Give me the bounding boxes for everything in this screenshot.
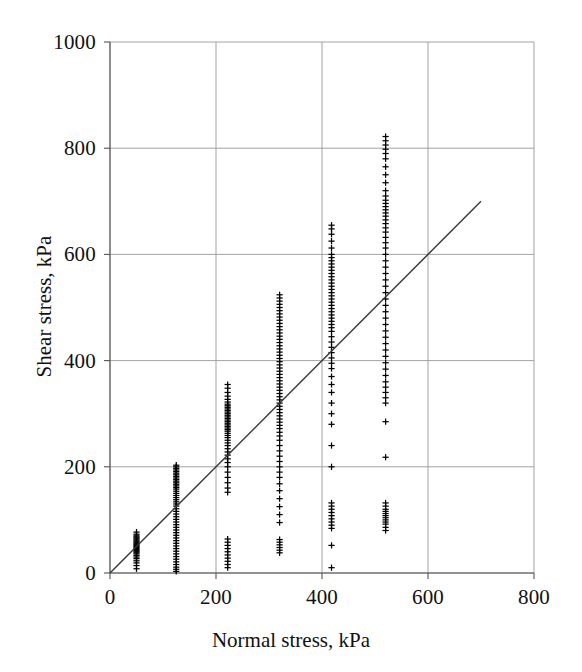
data-point-marker — [277, 488, 283, 494]
data-point-marker — [383, 258, 389, 264]
data-point-marker — [328, 238, 334, 244]
data-point-marker — [328, 565, 334, 571]
data-point-marker — [383, 309, 389, 315]
data-point-marker — [383, 419, 389, 425]
y-tick-label: 1000 — [0, 30, 96, 55]
data-point-marker — [328, 442, 334, 448]
data-points-group — [133, 133, 388, 574]
data-point-marker — [328, 421, 334, 427]
x-tick-label: 400 — [306, 585, 338, 610]
data-point-marker — [277, 481, 283, 487]
data-point-marker — [225, 474, 231, 480]
data-point-marker — [225, 485, 231, 491]
data-point-marker — [277, 474, 283, 480]
data-point-marker — [328, 381, 334, 387]
data-point-marker — [383, 180, 389, 186]
data-point-marker — [277, 519, 283, 525]
shear-strength-scatter-figure: 02004006008001000 0200400600800 Normal s… — [0, 0, 582, 672]
y-axis-title: Shear stress, kPa — [32, 197, 57, 417]
data-point-marker — [328, 365, 334, 371]
data-point-marker — [383, 270, 389, 276]
data-point-marker — [225, 381, 231, 387]
data-point-marker — [383, 379, 389, 385]
data-point-marker — [328, 251, 334, 257]
data-point-marker — [383, 454, 389, 460]
data-point-marker — [383, 264, 389, 270]
data-point-marker — [277, 469, 283, 475]
data-point-marker — [383, 384, 389, 390]
data-point-marker — [328, 360, 334, 366]
data-point-marker — [383, 500, 389, 506]
data-point-marker — [383, 133, 389, 139]
data-point-marker — [383, 328, 389, 334]
data-point-marker — [277, 442, 283, 448]
data-point-marker — [383, 302, 389, 308]
data-point-marker — [383, 366, 389, 372]
x-tick-label: 200 — [200, 585, 232, 610]
data-point-marker — [383, 372, 389, 378]
x-tick-label: 0 — [105, 585, 116, 610]
data-point-marker — [383, 172, 389, 178]
data-point-marker — [383, 164, 389, 170]
trendline-segment — [110, 201, 481, 573]
tick-marks-group — [104, 42, 534, 579]
data-point-marker — [383, 277, 389, 283]
data-point-marker — [328, 373, 334, 379]
data-point-marker — [328, 411, 334, 417]
data-point-marker — [383, 251, 389, 257]
data-point-marker — [225, 536, 231, 542]
data-point-marker — [328, 231, 334, 237]
data-point-marker — [383, 341, 389, 347]
data-point-marker — [328, 389, 334, 395]
data-point-marker — [328, 245, 334, 251]
x-axis-title: Normal stress, kPa — [0, 628, 582, 653]
data-point-marker — [277, 458, 283, 464]
x-tick-label: 600 — [412, 585, 444, 610]
data-point-marker — [383, 188, 389, 194]
data-point-marker — [225, 480, 231, 486]
data-point-marker — [383, 389, 389, 395]
data-point-marker — [277, 504, 283, 510]
data-point-marker — [328, 222, 334, 228]
data-point-marker — [383, 315, 389, 321]
data-point-marker — [277, 464, 283, 470]
data-point-marker — [328, 464, 334, 470]
data-point-marker — [277, 511, 283, 517]
data-point-marker — [383, 245, 389, 251]
data-point-marker — [328, 334, 334, 340]
data-point-marker — [383, 234, 389, 240]
data-point-marker — [277, 448, 283, 454]
data-point-marker — [383, 240, 389, 246]
x-tick-label: 800 — [518, 585, 550, 610]
trendline — [110, 201, 481, 573]
data-point-marker — [328, 355, 334, 361]
data-point-marker — [328, 500, 334, 506]
data-point-marker — [277, 453, 283, 459]
data-point-marker — [383, 353, 389, 359]
data-point-marker — [383, 400, 389, 406]
y-tick-label: 200 — [0, 454, 96, 479]
data-point-marker — [383, 283, 389, 289]
data-point-marker — [383, 321, 389, 327]
data-point-marker — [328, 339, 334, 345]
data-point-marker — [383, 193, 389, 199]
data-point-marker — [383, 334, 389, 340]
y-tick-label: 800 — [0, 136, 96, 161]
data-point-marker — [328, 400, 334, 406]
y-tick-label: 0 — [0, 561, 96, 586]
data-point-marker — [225, 469, 231, 475]
data-point-marker — [328, 542, 334, 548]
data-point-marker — [277, 496, 283, 502]
data-point-marker — [277, 292, 283, 298]
data-point-marker — [383, 347, 389, 353]
data-point-marker — [383, 395, 389, 401]
data-point-marker — [383, 156, 389, 162]
